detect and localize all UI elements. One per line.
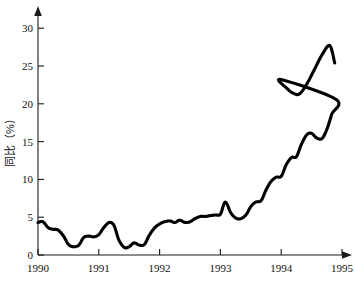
x-tick-label-1992: 1992 — [149, 262, 171, 274]
data-series-line — [38, 45, 339, 248]
x-tick-label-1990: 1990 — [27, 262, 50, 274]
x-tick-label-1995: 1995 — [331, 262, 354, 274]
line-chart: 0 5 10 15 20 25 30 1990 1991 1992 1993 1… — [0, 0, 355, 288]
x-tick-label-1993: 1993 — [209, 262, 232, 274]
y-tick-label-0: 0 — [28, 249, 34, 261]
y-tick-label-25: 25 — [22, 60, 34, 72]
y-tick-label-30: 30 — [22, 22, 34, 34]
x-axis-tick-labels: 1990 1991 1992 1993 1994 1995 — [27, 262, 354, 274]
y-axis-title: 同比（%） — [4, 113, 16, 167]
y-tick-label-10: 10 — [22, 173, 34, 185]
y-axis-tick-labels: 0 5 10 15 20 25 30 — [22, 22, 34, 261]
y-axis-arrow-icon — [34, 6, 42, 16]
y-tick-label-15: 15 — [22, 136, 34, 148]
x-axis-ticks — [38, 249, 342, 255]
y-tick-label-5: 5 — [28, 211, 34, 223]
x-axis-arrow-icon — [342, 251, 352, 258]
x-tick-label-1991: 1991 — [88, 262, 110, 274]
y-tick-label-20: 20 — [22, 98, 34, 110]
x-tick-label-1994: 1994 — [270, 262, 293, 274]
chart-container: 0 5 10 15 20 25 30 1990 1991 1992 1993 1… — [0, 0, 355, 288]
